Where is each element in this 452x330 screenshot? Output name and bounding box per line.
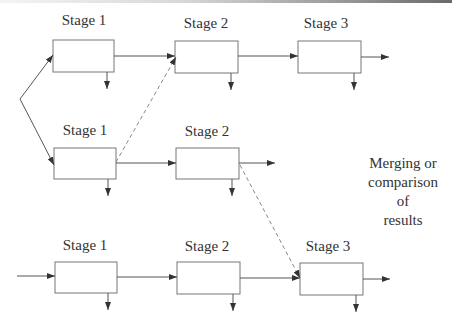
row1-stage1-label: Stage 1	[62, 12, 107, 29]
branch-to-row1-arrow	[20, 55, 53, 99]
row3-stage3-label: Stage 3	[306, 238, 351, 255]
note-line-1: Merging or	[368, 154, 438, 173]
row2-stage2-label: Stage 2	[185, 123, 230, 140]
row2-stage1-label: Stage 1	[63, 122, 108, 139]
row1-stage2-box	[175, 41, 238, 73]
row2-stage2-box	[176, 148, 239, 179]
row1-stage2-label: Stage 2	[184, 15, 229, 32]
row1-stage3-label: Stage 3	[304, 15, 349, 32]
note-line-2: comparison of	[368, 173, 438, 211]
branch-to-row2-arrow	[20, 99, 54, 165]
row3-stage3-box	[300, 263, 363, 295]
row2-stage1-box	[54, 148, 116, 179]
dashed-row2s1-to-row1s2-arrow	[116, 57, 176, 162]
row3-stage2-box	[177, 262, 240, 294]
note-line-3: results	[368, 211, 438, 230]
row3-stage1-box	[55, 262, 117, 293]
merging-note: Merging or comparison of results	[368, 154, 438, 230]
row3-stage1-label: Stage 1	[63, 237, 108, 254]
row3-stage2-label: Stage 2	[185, 238, 230, 255]
row1-stage3-box	[298, 41, 361, 73]
dashed-row2s2-to-row3s3-arrow	[240, 165, 300, 278]
row1-stage1-box	[53, 40, 114, 72]
